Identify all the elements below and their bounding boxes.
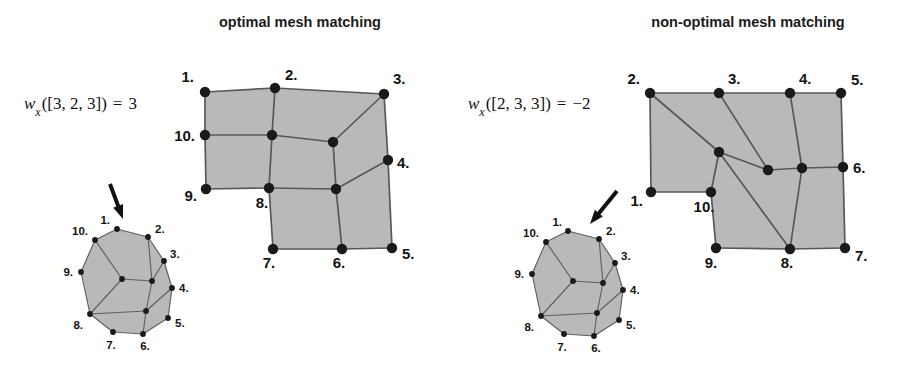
optimal-small-mesh-node-label: 6. bbox=[140, 340, 150, 352]
non-optimal-big-mesh-node[interactable] bbox=[797, 163, 807, 173]
non-optimal-small-mesh-node-label: 4. bbox=[630, 284, 640, 296]
optimal-big-mesh-node[interactable] bbox=[383, 155, 393, 165]
non-optimal-big-mesh-node-label: 10. bbox=[694, 198, 715, 215]
non-optimal-big-mesh-node[interactable] bbox=[763, 165, 773, 175]
optimal-big-mesh-node[interactable] bbox=[268, 244, 278, 254]
non-optimal-small-mesh-node[interactable] bbox=[596, 236, 602, 242]
optimal-small-mesh-node[interactable] bbox=[119, 276, 125, 282]
optimal-small-mesh-node-label: 2. bbox=[155, 223, 165, 235]
non-optimal-big-mesh-node-label: 8. bbox=[781, 254, 794, 271]
optimal-big-mesh-node-label: 6. bbox=[333, 254, 346, 271]
non-optimal-small-mesh-node[interactable] bbox=[570, 278, 576, 284]
optimal-small-mesh-node[interactable] bbox=[110, 329, 116, 335]
non-optimal-big-mesh-edge bbox=[716, 248, 790, 249]
optimal-big-mesh-node[interactable] bbox=[270, 83, 280, 93]
optimal-big-mesh-edge bbox=[206, 188, 269, 189]
optimal-small-mesh-node-label: 4. bbox=[179, 282, 189, 294]
optimal-small-mesh-node[interactable] bbox=[161, 258, 167, 264]
optimal-big-mesh-node[interactable] bbox=[201, 184, 211, 194]
non-optimal-big-mesh-node-label: 3. bbox=[728, 70, 741, 87]
optimal-big-mesh-node-label: 10. bbox=[174, 127, 195, 144]
optimal-big-mesh-node-label: 3. bbox=[393, 70, 406, 87]
optimal-big-mesh-node[interactable] bbox=[200, 130, 210, 140]
mesh-matching-figure: optimal mesh matchingwx([3, 2, 3])=31.2.… bbox=[0, 0, 901, 365]
non-optimal-small-mesh-node[interactable] bbox=[543, 239, 549, 245]
optimal-small-mesh-node-label: 7. bbox=[106, 339, 116, 351]
optimal-big-mesh-node-label: 4. bbox=[397, 154, 410, 171]
optimal-big-mesh-node[interactable] bbox=[267, 130, 277, 140]
non-optimal-big-mesh-node-label: 1. bbox=[630, 192, 643, 209]
optimal-big-mesh-edge bbox=[205, 135, 206, 189]
non-optimal-big-mesh-node[interactable] bbox=[785, 88, 795, 98]
optimal-small-mesh-node[interactable] bbox=[114, 226, 120, 232]
non-optimal-big-mesh-node[interactable] bbox=[706, 187, 716, 197]
optimal-big-mesh-edge bbox=[269, 188, 336, 189]
non-optimal-small-mesh-node-label: 10. bbox=[523, 227, 539, 239]
non-optimal-small-mesh-node[interactable] bbox=[620, 287, 626, 293]
optimal-big-mesh-edge bbox=[342, 248, 392, 249]
non-optimal-small-mesh-node[interactable] bbox=[594, 310, 600, 316]
optimal-small-mesh-node-label: 1. bbox=[100, 214, 110, 226]
panel-optimal-title: optimal mesh matching bbox=[219, 14, 381, 30]
non-optimal-big-mesh-node[interactable] bbox=[646, 187, 656, 197]
non-optimal-big-mesh-node[interactable] bbox=[840, 243, 850, 253]
non-optimal-big-mesh-node[interactable] bbox=[714, 147, 724, 157]
non-optimal-small-mesh-node[interactable] bbox=[561, 331, 567, 337]
non-optimal-small-mesh-node[interactable] bbox=[565, 228, 571, 234]
non-optimal-small-mesh-node[interactable] bbox=[529, 271, 535, 277]
non-optimal-small-mesh-node[interactable] bbox=[591, 333, 597, 339]
non-optimal-big-mesh-node-label: 9. bbox=[705, 254, 718, 271]
optimal-small-mesh-node[interactable] bbox=[143, 308, 149, 314]
non-optimal-big-mesh-edge bbox=[802, 167, 843, 168]
optimal-big-mesh-node[interactable] bbox=[387, 243, 397, 253]
optimal-small-mesh-node[interactable] bbox=[165, 315, 171, 321]
optimal-small-mesh-node[interactable] bbox=[87, 311, 93, 317]
optimal-small-mesh-node-label: 5. bbox=[175, 317, 185, 329]
non-optimal-small-mesh-node-label: 3. bbox=[621, 250, 631, 262]
non-optimal-small-mesh-node-label: 5. bbox=[626, 319, 636, 331]
non-optimal-small-mesh-node-label: 2. bbox=[606, 225, 616, 237]
non-optimal-big-mesh-node-label: 5. bbox=[851, 71, 864, 88]
non-optimal-big-mesh-edge bbox=[790, 248, 845, 249]
optimal-big-mesh-node[interactable] bbox=[379, 89, 389, 99]
non-optimal-big-mesh-node[interactable] bbox=[836, 88, 846, 98]
non-optimal-small-mesh-node-label: 1. bbox=[552, 216, 562, 228]
optimal-small-mesh-node[interactable] bbox=[169, 285, 175, 291]
non-optimal-big-mesh-node[interactable] bbox=[645, 88, 655, 98]
non-optimal-big-mesh-node[interactable] bbox=[785, 244, 795, 254]
non-optimal-small-mesh-node-label: 6. bbox=[591, 342, 601, 354]
optimal-small-mesh-node-label: 10. bbox=[72, 225, 88, 237]
non-optimal-big-mesh-edge bbox=[650, 93, 651, 192]
optimal-big-mesh-node[interactable] bbox=[337, 244, 347, 254]
optimal-big-mesh-node[interactable] bbox=[328, 137, 338, 147]
optimal-big-mesh-node-label: 7. bbox=[263, 254, 276, 271]
non-optimal-big-mesh-node-label: 2. bbox=[627, 70, 640, 87]
optimal-big-mesh-node[interactable] bbox=[331, 184, 341, 194]
optimal-small-mesh-node[interactable] bbox=[149, 278, 155, 284]
optimal-big-mesh-node[interactable] bbox=[200, 87, 210, 97]
optimal-big-mesh-node-label: 5. bbox=[402, 245, 415, 262]
non-optimal-big-mesh-node-label: 4. bbox=[799, 70, 812, 87]
optimal-small-mesh-node-label: 9. bbox=[63, 266, 73, 278]
optimal-big-mesh-node-label: 8. bbox=[256, 194, 269, 211]
optimal-small-mesh-node[interactable] bbox=[140, 331, 146, 337]
non-optimal-small-mesh-node-label: 8. bbox=[524, 321, 534, 333]
non-optimal-big-mesh-node[interactable] bbox=[711, 243, 721, 253]
non-optimal-small-mesh-node-label: 7. bbox=[557, 341, 567, 353]
optimal-small-mesh-node-label: 3. bbox=[170, 248, 180, 260]
non-optimal-small-mesh-node[interactable] bbox=[612, 260, 618, 266]
non-optimal-big-mesh-node-label: 6. bbox=[853, 159, 866, 176]
optimal-small-mesh-node-label: 8. bbox=[73, 319, 83, 331]
optimal-small-mesh-node[interactable] bbox=[78, 269, 84, 275]
non-optimal-big-mesh-node[interactable] bbox=[714, 88, 724, 98]
optimal-small-mesh-node[interactable] bbox=[92, 237, 98, 243]
non-optimal-small-mesh-node[interactable] bbox=[538, 313, 544, 319]
optimal-big-mesh-node-label: 1. bbox=[181, 68, 194, 85]
optimal-big-mesh-node-label: 2. bbox=[285, 66, 298, 83]
optimal-big-mesh-node[interactable] bbox=[264, 183, 274, 193]
non-optimal-small-mesh-node[interactable] bbox=[600, 280, 606, 286]
non-optimal-big-mesh-node[interactable] bbox=[838, 162, 848, 172]
non-optimal-big-mesh-node-label: 7. bbox=[855, 247, 868, 264]
optimal-small-mesh-node[interactable] bbox=[145, 234, 151, 240]
non-optimal-small-mesh-node[interactable] bbox=[616, 317, 622, 323]
